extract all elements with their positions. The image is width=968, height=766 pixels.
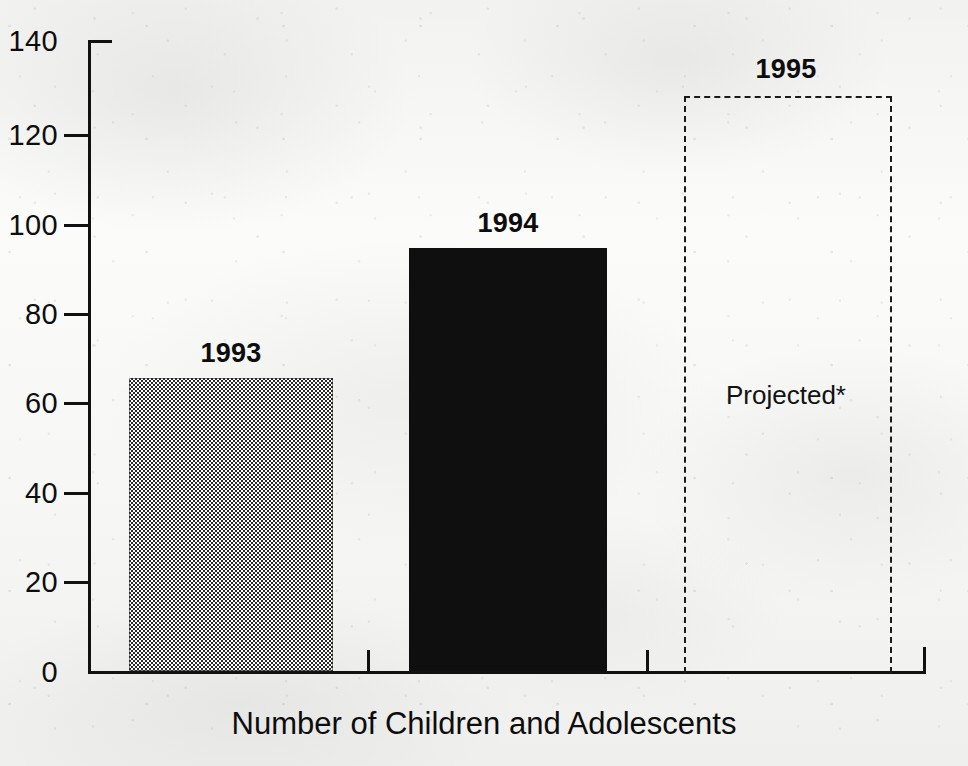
y-tick-label-80: 80 (0, 300, 58, 329)
bar-label-1994: 1994 (409, 210, 607, 237)
y-tick-label-40: 40 (0, 479, 58, 508)
y-tick-label-0: 0 (0, 658, 58, 687)
bar-1994[interactable] (409, 248, 607, 671)
plot-area: 140 120 100 80 60 40 20 0 1993 1994 1995… (0, 0, 968, 766)
bar-label-1993: 1993 (129, 340, 333, 367)
x-axis-title: Number of Children and Adolescents (0, 708, 968, 739)
y-tick-label-140: 140 (0, 27, 58, 56)
x-tick-between-1993-1994 (367, 650, 370, 672)
y-tick-40 (64, 492, 91, 495)
projected-note: Projected* (684, 382, 888, 408)
y-tick-label-120: 120 (0, 121, 58, 150)
y-tick-label-100: 100 (0, 211, 58, 240)
x-axis-right-cap (923, 647, 926, 674)
y-tick-80 (64, 313, 91, 316)
y-tick-20 (64, 581, 91, 584)
y-tick-label-60: 60 (0, 389, 58, 418)
y-tick-120 (64, 134, 91, 137)
x-tick-between-1994-1995 (646, 650, 649, 672)
y-tick-100 (64, 224, 91, 227)
y-axis-top-cap (88, 40, 112, 43)
bar-1993[interactable] (129, 378, 333, 671)
bar-label-1995: 1995 (684, 56, 888, 83)
y-tick-label-20: 20 (0, 568, 58, 597)
y-tick-60 (64, 402, 91, 405)
chart-page: 140 120 100 80 60 40 20 0 1993 1994 1995… (0, 0, 968, 766)
